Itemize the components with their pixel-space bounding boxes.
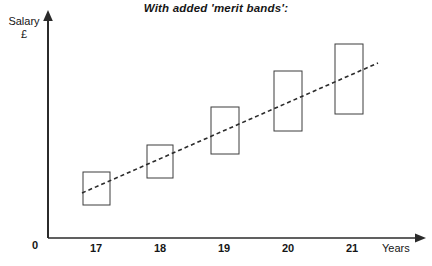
y-axis-unit: £ [2,29,46,41]
origin-label: 0 [26,240,44,252]
page-title: With added 'merit bands': [0,2,432,14]
merit-band-box-18 [147,145,173,178]
x-axis-arrowhead [415,233,426,242]
axes-group [43,10,426,243]
x-tick-label-18: 18 [145,243,175,255]
y-axis-title: Salary £ [2,16,46,40]
chart-graphics [0,0,432,266]
x-tick-label-17: 17 [81,243,111,255]
x-tick-label-19: 19 [209,243,239,255]
merit-band-box-17 [83,172,110,205]
trend-line [82,63,378,193]
trend-line-group [82,63,378,193]
y-axis-label: Salary [8,15,39,27]
merit-band-box-20 [274,71,302,131]
chart-canvas: With added 'merit bands': Salary £ 0 171… [0,0,432,266]
x-axis-title: Years [382,243,410,255]
x-tick-label-20: 20 [273,243,303,255]
x-tick-label-21: 21 [337,243,367,255]
merit-band-boxes [83,44,363,205]
merit-band-box-21 [335,44,363,114]
